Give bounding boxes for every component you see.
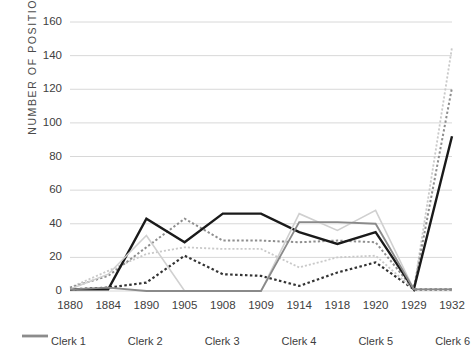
series-line-clerk-5 [70,210,452,291]
legend-swatch [99,336,125,346]
legend-item-clerk-2[interactable]: Clerk 2 [99,335,163,347]
legend-swatch [176,336,202,346]
legend-item-clerk-5[interactable]: Clerk 5 [329,335,393,347]
legend-label: Clerk 5 [358,335,393,347]
legend-swatch [406,336,432,346]
legend-item-clerk-6[interactable]: Clerk 6 [406,335,470,347]
legend-item-clerk-3[interactable]: Clerk 3 [176,335,240,347]
chart-legend: Clerk 1Clerk 2Clerk 3Clerk 4Clerk 5Clerk… [22,331,462,351]
legend-item-clerk-4[interactable]: Clerk 4 [253,335,317,347]
legend-label: Clerk 3 [205,335,240,347]
legend-swatch [253,336,279,346]
legend-label: Clerk 1 [51,335,86,347]
legend-swatch [329,336,355,346]
legend-label: Clerk 6 [435,335,470,347]
legend-label: Clerk 4 [282,335,317,347]
series-line-clerk-4 [70,136,452,289]
legend-label: Clerk 2 [128,335,163,347]
